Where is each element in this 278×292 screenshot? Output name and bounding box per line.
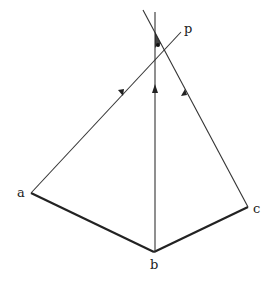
segment-b-c	[154, 207, 248, 252]
label-a: a	[17, 186, 25, 199]
ray-a-to-p	[31, 32, 181, 193]
arrow-icon-ray-b	[152, 84, 158, 93]
ray-diagram	[0, 0, 278, 292]
label-p: p	[184, 22, 192, 35]
segment-a-b	[31, 193, 154, 252]
label-b: b	[150, 258, 158, 271]
arrow-icon-ray-a	[118, 89, 124, 96]
angle-dot-icon	[156, 43, 160, 47]
label-c: c	[253, 202, 260, 215]
